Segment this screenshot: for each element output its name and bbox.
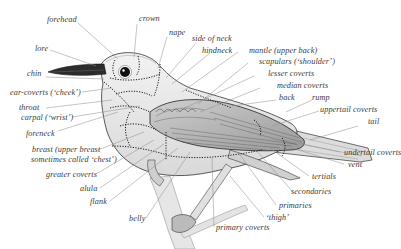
label-median-coverts: median coverts xyxy=(277,81,328,90)
label-secondaries: secondaries xyxy=(291,187,331,196)
label-alula: alula xyxy=(80,184,97,193)
label-vent: vent xyxy=(348,160,362,169)
label-tail: tail xyxy=(368,117,379,126)
label-carpal: carpal (‘wrist’) xyxy=(21,113,73,122)
label-foreneck: foreneck xyxy=(26,129,55,138)
label-rump: rump xyxy=(312,93,330,102)
bird-topography-diagram: forehead crown nape side of neck hindnec… xyxy=(0,0,401,249)
label-tertials: tertials xyxy=(312,172,336,181)
label-belly: belly xyxy=(129,214,145,223)
label-breast-line2: sometimes called ‘chest’) xyxy=(31,155,117,164)
label-hindneck: hindneck xyxy=(202,46,232,55)
label-lesser-coverts: lesser coverts xyxy=(268,69,314,78)
label-back: back xyxy=(279,93,295,102)
label-forehead: forehead xyxy=(47,15,77,24)
label-primary-coverts: primary coverts xyxy=(216,223,270,232)
label-ear-coverts: ear-coverts (‘cheek’) xyxy=(10,88,81,97)
label-scapulars: scapulars (‘shoulder’) xyxy=(259,57,335,66)
label-primaries: primaries xyxy=(279,201,312,210)
label-throat: throat xyxy=(19,103,39,112)
label-mantle: mantle (upper back) xyxy=(249,46,317,55)
eye xyxy=(119,66,132,79)
label-chin: chin xyxy=(27,69,42,78)
label-lore: lore xyxy=(35,44,48,53)
label-flank: flank xyxy=(90,197,107,206)
label-uppertail-coverts: uppertail coverts xyxy=(320,105,377,114)
label-undertail-coverts: undertail coverts xyxy=(344,148,401,157)
label-thigh: ‘thigh’ xyxy=(266,213,289,222)
label-breast-line1: breast (upper breast xyxy=(32,145,100,154)
label-crown: crown xyxy=(139,14,160,23)
label-nape: nape xyxy=(169,28,185,37)
label-side-of-neck: side of neck xyxy=(192,34,232,43)
label-greater-coverts: greater coverts xyxy=(46,170,97,179)
beak xyxy=(48,64,106,75)
